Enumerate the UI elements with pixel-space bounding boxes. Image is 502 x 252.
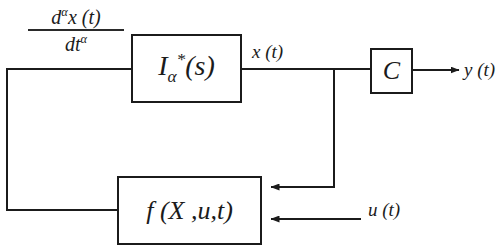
integrator-order-subscript: α (167, 67, 176, 86)
integrator-argument: (s) (185, 51, 215, 82)
fraction-denominator-exponent: α (81, 32, 88, 46)
fraction-numerator-tail: x (t) (68, 6, 101, 28)
fraction-bar (28, 29, 124, 31)
fraction-numerator: dαx (t) (24, 6, 128, 28)
derivative-fraction: dαx (t) dtα (24, 6, 128, 54)
signal-label-y-of-t: y (t) (464, 60, 495, 79)
block-fractional-integrator[interactable]: Iα*(s) (131, 34, 242, 103)
signal-label-u-of-t: u (t) (368, 200, 400, 219)
fraction-numerator-main: d (51, 6, 61, 28)
wire-state-to-feedback (271, 70, 334, 187)
block-fractional-integrator-label: Iα*(s) (158, 51, 215, 85)
signal-label-x-of-t: x (t) (252, 42, 283, 61)
block-output-gain-c-label: C (383, 58, 400, 84)
block-diagram: dαx (t) dtα Iα*(s) C f (X ,u,t) x (t) y … (0, 0, 502, 252)
wire-feedback-loop (7, 69, 131, 210)
fraction-denominator-main: dt (65, 32, 81, 54)
integrator-star-superscript: * (177, 50, 186, 69)
block-feedback-function-label: f (X ,u,t) (146, 198, 233, 224)
block-feedback-function[interactable]: f (X ,u,t) (117, 176, 262, 245)
fraction-denominator: dtα (24, 32, 128, 55)
block-output-gain-c[interactable]: C (370, 48, 413, 94)
